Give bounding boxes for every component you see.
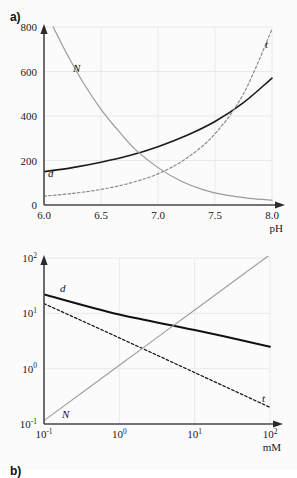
y-tick-label: 102 <box>22 251 37 265</box>
x-axis-title: mM <box>263 441 282 453</box>
curve-d <box>44 294 270 346</box>
curve-label-t: t <box>262 392 266 404</box>
curve-N <box>53 27 272 200</box>
x-tick-label: 6.0 <box>37 209 51 221</box>
curve-label-d: d <box>60 282 66 294</box>
panel-b: b) 10-110010110210-1100101102mMdNt <box>0 230 297 471</box>
panel-a: a) 6.06.57.07.58.00200400600800pHNdt <box>0 0 297 237</box>
x-axis-arrowhead <box>275 201 285 208</box>
x-tick-label: 101 <box>187 427 202 441</box>
y-tick-label: 200 <box>21 155 38 167</box>
panel-a-plot: 6.06.57.07.58.00200400600800pHNdt <box>0 0 297 237</box>
panel-b-plot: 10-110010110210-1100101102mMdNt <box>0 230 297 471</box>
x-tick-label: 7.5 <box>208 209 222 221</box>
curve-N <box>44 255 270 421</box>
y-tick-label: 400 <box>21 110 38 122</box>
curve-label-d: d <box>48 167 54 179</box>
x-tick-label: 8.0 <box>265 209 279 221</box>
x-tick-label: 100 <box>112 427 127 441</box>
y-tick-label: 600 <box>21 66 38 78</box>
y-tick-label: 0 <box>32 199 38 211</box>
x-tick-label: 7.0 <box>151 209 165 221</box>
y-axis-arrowhead <box>40 24 47 34</box>
y-axis-arrowhead <box>40 255 47 265</box>
curve-label-N: N <box>61 408 70 420</box>
y-tick-label: 800 <box>21 21 38 33</box>
curve-t <box>44 304 270 408</box>
x-tick-label: 10-1 <box>35 427 52 441</box>
x-tick-label: 102 <box>263 427 278 441</box>
y-tick-label: 101 <box>22 306 37 320</box>
curve-label-N: N <box>72 62 81 74</box>
x-tick-label: 6.5 <box>94 209 108 221</box>
y-tick-label: 100 <box>22 361 37 375</box>
curve-label-t: t <box>265 38 269 50</box>
